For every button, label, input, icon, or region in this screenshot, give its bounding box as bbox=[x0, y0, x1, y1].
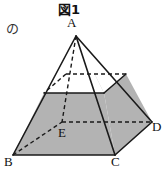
vertex-label-e: E bbox=[58, 126, 66, 139]
vertex-label-d: D bbox=[152, 120, 161, 133]
figure-container: 図1 の A B C D E bbox=[0, 0, 167, 172]
vertex-label-a: A bbox=[67, 16, 76, 29]
face-front-left bbox=[13, 93, 115, 155]
vertex-label-b: B bbox=[4, 155, 13, 168]
vertex-label-c: C bbox=[111, 155, 120, 168]
side-annotation-text: の bbox=[6, 22, 19, 35]
pyramid-diagram bbox=[0, 0, 167, 172]
